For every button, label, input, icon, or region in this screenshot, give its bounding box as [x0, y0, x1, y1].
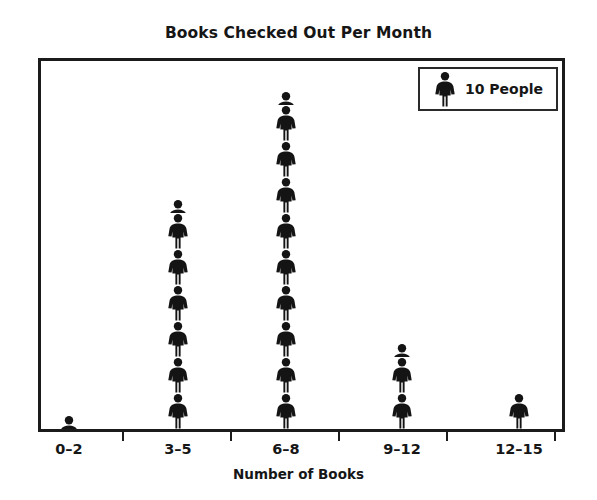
x-axis-tick-label: 6–8 — [241, 441, 331, 457]
person-icon — [273, 105, 299, 141]
plot-area — [41, 61, 562, 429]
person-icon-partial — [389, 343, 415, 357]
x-axis-tick-label: 9–12 — [357, 441, 447, 457]
x-axis-tick-label: 3–5 — [133, 441, 223, 457]
person-icon — [165, 249, 191, 285]
legend: 10 People — [418, 67, 558, 111]
x-axis-tick-label: 0–2 — [24, 441, 114, 457]
icon-column — [266, 91, 306, 429]
x-axis-tick — [554, 432, 556, 441]
person-icon-partial — [273, 91, 299, 105]
person-icon — [273, 249, 299, 285]
person-icon-partial — [165, 199, 191, 213]
person-icon — [273, 285, 299, 321]
person-icon — [432, 71, 458, 107]
person-icon — [273, 393, 299, 429]
icon-column — [158, 199, 198, 429]
x-axis-tick — [122, 432, 124, 441]
person-icon — [273, 357, 299, 393]
icon-column — [382, 343, 422, 429]
x-axis-tick-label: 12–15 — [474, 441, 564, 457]
person-icon — [165, 321, 191, 357]
x-axis-tick — [446, 432, 448, 441]
x-axis-title: Number of Books — [0, 466, 597, 482]
person-icon — [389, 393, 415, 429]
pictogram-chart: Books Checked Out Per Month 0–23–56–89–1… — [0, 0, 597, 500]
chart-title: Books Checked Out Per Month — [0, 24, 597, 42]
x-axis-tick-labels: 0–23–56–89–1212–15 — [38, 441, 565, 463]
person-icon-partial — [56, 415, 82, 429]
person-icon — [389, 357, 415, 393]
person-icon — [273, 321, 299, 357]
icon-column — [49, 415, 89, 429]
person-icon — [165, 357, 191, 393]
person-icon — [506, 393, 532, 429]
person-icon — [273, 177, 299, 213]
person-icon — [273, 141, 299, 177]
person-icon — [165, 285, 191, 321]
x-axis-tick — [338, 432, 340, 441]
person-icon — [165, 393, 191, 429]
person-icon — [273, 213, 299, 249]
legend-label: 10 People — [458, 81, 556, 97]
icon-column — [499, 393, 539, 429]
x-axis-tick — [230, 432, 232, 441]
person-icon — [165, 213, 191, 249]
